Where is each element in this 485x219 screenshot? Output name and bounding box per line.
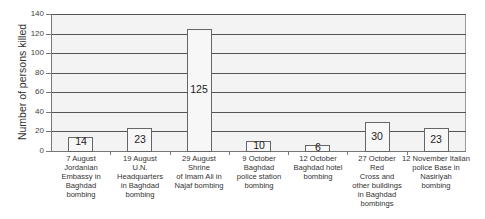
category-label-line: police station [228, 172, 290, 181]
y-tick-mark [46, 112, 51, 113]
y-axis-title: Number of persons killed [16, 24, 28, 140]
bar-value-label: 23 [416, 134, 456, 145]
category-label: 12 November Italianpolice Base inNasiriy… [398, 154, 474, 190]
gridline [51, 14, 466, 15]
category-label-line: of Imam Ali in [168, 172, 230, 181]
category-label-line: Embassy in [50, 172, 112, 181]
category-label-line: bombing [398, 181, 474, 190]
category-label-line: in Baghdad [109, 181, 171, 190]
category-label-line: 19 August [109, 154, 171, 163]
category-label-line: Baghdad [228, 163, 290, 172]
y-tick-mark [46, 53, 51, 54]
y-tick-mark [46, 151, 51, 152]
category-label-line: 9 October [228, 154, 290, 163]
category-label: 19 AugustU.N.Headquartersin Baghdadbombi… [109, 154, 171, 199]
category-label-line: Nasiriyah [398, 172, 474, 181]
category-label-line: in Baghdad [346, 190, 408, 199]
bar-value-label: 6 [298, 142, 338, 153]
category-label-line: Baghdad [50, 181, 112, 190]
category-label: 9 OctoberBaghdadpolice stationbombing [228, 154, 290, 190]
bar-chart: 020406080100120140 Number of persons kil… [0, 0, 485, 219]
category-label-line: Jordanian [50, 163, 112, 172]
gridline [51, 131, 466, 132]
gridline [51, 112, 466, 113]
bar-value-label: 23 [120, 134, 160, 145]
y-tick-mark [46, 14, 51, 15]
category-label-line: Shrine [168, 163, 230, 172]
category-label-line: bombing [50, 190, 112, 199]
bar-value-label: 30 [357, 131, 397, 142]
category-label-line: U.N. [109, 163, 171, 172]
gridline [51, 92, 466, 93]
y-tick-label: 140 [14, 10, 44, 18]
category-label-line: police Base in [398, 163, 474, 172]
y-tick-mark [46, 131, 51, 132]
gridline [51, 34, 466, 35]
y-tick-label: 0 [14, 147, 44, 155]
category-label-line: bombing [228, 181, 290, 190]
y-tick-mark [46, 73, 51, 74]
category-label: 12 OctoberBaghdad hotelbombing [287, 154, 349, 181]
gridline [51, 73, 466, 74]
bar-value-label: 14 [61, 136, 101, 147]
bar-value-label: 125 [179, 84, 219, 95]
y-axis [51, 14, 52, 152]
category-label: 7 AugustJordanianEmbassy inBaghdadbombin… [50, 154, 112, 199]
category-label-line: 12 October [287, 154, 349, 163]
y-tick-mark [46, 34, 51, 35]
category-label-line: bombing [287, 172, 349, 181]
category-label-line: Najaf bombing [168, 181, 230, 190]
category-label-line: 7 August [50, 154, 112, 163]
category-label-line: 12 November Italian [398, 154, 474, 163]
category-label-line: Headquarters [109, 172, 171, 181]
category-label-line: Baghdad hotel [287, 163, 349, 172]
bar-value-label: 10 [239, 140, 279, 151]
y-tick-mark [46, 92, 51, 93]
category-label-line: bombings [346, 199, 408, 208]
category-label-line: 29 August [168, 154, 230, 163]
category-label: 29 AugustShrineof Imam Ali inNajaf bombi… [168, 154, 230, 190]
category-label-line: bombing [109, 190, 171, 199]
gridline [51, 53, 466, 54]
